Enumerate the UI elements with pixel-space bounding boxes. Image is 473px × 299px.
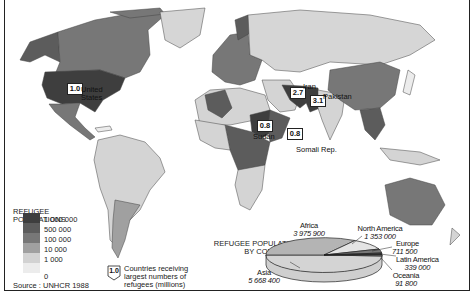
pie-label-value: 5 668 400 xyxy=(248,276,280,285)
pie-label-value: 91 800 xyxy=(395,279,417,288)
pie-label-europe: Europe 711 500 xyxy=(392,240,419,256)
pie-label-asia: Asia 5 668 400 xyxy=(244,269,284,285)
pie-label-africa: Africa 3 975 900 xyxy=(285,222,333,238)
pie-label-value: 3 975 900 xyxy=(293,229,325,238)
pie-label-latin-america: Latin America 339 000 xyxy=(396,256,439,272)
pie-label-oceania: Oceania 91 800 xyxy=(388,272,424,288)
